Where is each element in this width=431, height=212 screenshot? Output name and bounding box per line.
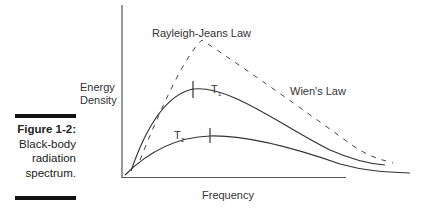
y-axis-label-line2: Density	[80, 94, 117, 106]
wien-law-label: Wien's Law	[290, 85, 346, 97]
curve-t1	[131, 89, 385, 171]
t1-subscript: 1	[218, 91, 222, 97]
y-axis-label-line1: Energy	[80, 81, 115, 93]
x-axis-label: Frequency	[202, 189, 254, 201]
rayleigh-jeans-label: Rayleigh-Jeans Law	[152, 27, 251, 39]
t1-label: T	[211, 83, 218, 95]
classical-dashed-curve	[140, 40, 393, 163]
t2-label: T	[174, 129, 181, 141]
blackbody-diagram: Rayleigh-Jeans Law Wien's Law Energy Den…	[0, 0, 431, 212]
curve-t2	[125, 136, 410, 175]
